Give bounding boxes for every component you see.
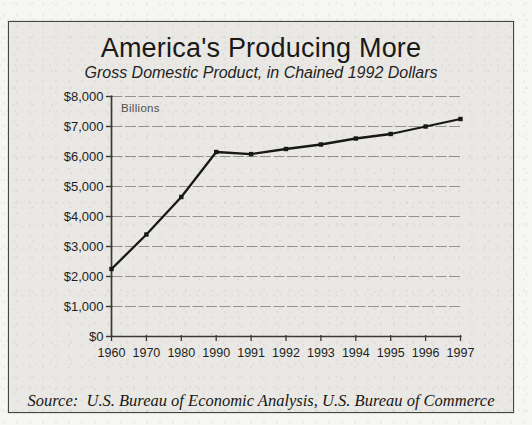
data-point-marker (109, 267, 113, 271)
data-point-marker (249, 152, 253, 156)
data-point-marker (354, 136, 358, 140)
y-tick-label: $7,000 (64, 119, 104, 134)
chart-panel: America's Producing More Gross Domestic … (8, 21, 514, 413)
y-tick-label: $0 (89, 329, 103, 344)
x-tick-label: 1997 (447, 346, 475, 360)
gdp-line (112, 119, 461, 269)
y-tick-label: $8,000 (64, 89, 104, 104)
data-point-marker (214, 150, 218, 154)
data-point-marker (144, 232, 148, 236)
gdp-line-chart: $0$1,000$2,000$3,000$4,000$5,000$6,000$7… (9, 22, 513, 412)
data-point-marker (458, 117, 462, 121)
x-tick-label: 1970 (132, 346, 160, 360)
y-tick-label: $5,000 (64, 179, 104, 194)
y-tick-label: $1,000 (64, 299, 104, 314)
x-tick-label: 1980 (167, 346, 195, 360)
x-tick-label: 1991 (237, 346, 265, 360)
x-tick-label: 1960 (98, 346, 126, 360)
y-tick-label: $4,000 (64, 209, 104, 224)
data-point-marker (389, 132, 393, 136)
x-tick-label: 1996 (412, 346, 440, 360)
x-tick-label: 1993 (307, 346, 335, 360)
unit-label: Billions (121, 102, 160, 114)
x-tick-label: 1990 (202, 346, 230, 360)
data-point-marker (284, 147, 288, 151)
source-caption: Source: U.S. Bureau of Economic Analysis… (9, 391, 513, 411)
scan-page: America's Producing More Gross Domestic … (0, 0, 532, 425)
data-point-marker (319, 142, 323, 146)
y-tick-label: $2,000 (64, 269, 104, 284)
y-tick-label: $3,000 (64, 239, 104, 254)
y-tick-label: $6,000 (64, 149, 104, 164)
x-tick-label: 1994 (342, 346, 370, 360)
x-tick-label: 1992 (272, 346, 300, 360)
x-tick-label: 1995 (377, 346, 405, 360)
data-point-marker (179, 195, 183, 199)
data-point-marker (423, 124, 427, 128)
